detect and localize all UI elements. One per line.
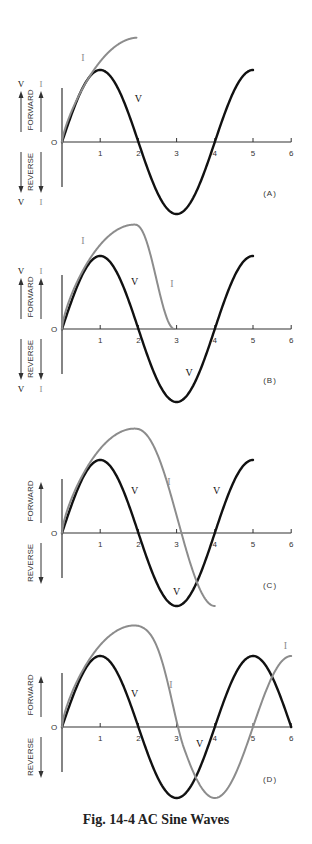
curve-label-v: V: [196, 738, 204, 749]
x-tick-label: 1: [98, 540, 103, 549]
side-label-i: I: [40, 79, 43, 89]
arrow-up-icon: [39, 676, 44, 683]
curve-label-i: I: [170, 278, 173, 289]
forward-label: FORWARD: [26, 674, 35, 715]
x-tick-label: 4: [213, 734, 218, 743]
arrow-up-icon: [39, 278, 44, 285]
curve-label-v: V: [131, 688, 139, 699]
reverse-label: REVERSE: [26, 544, 35, 582]
arrow-down-icon: [19, 186, 24, 193]
curve-label-i: I: [169, 679, 172, 690]
curve-label-v: V: [173, 586, 181, 597]
x-tick-label: 4: [213, 540, 218, 549]
panel-label: (B): [263, 376, 277, 385]
curve-label-i: I: [81, 235, 84, 246]
side-label-i: I: [40, 384, 43, 394]
arrow-down-icon: [39, 577, 44, 584]
forward-label: FORWARD: [26, 276, 35, 317]
side-label-v: V: [18, 79, 25, 89]
arrow-down-icon: [39, 373, 44, 380]
panel-label: (A): [263, 189, 277, 198]
x-tick-label: 5: [251, 540, 256, 549]
x-tick-label: 3: [174, 149, 179, 158]
side-label-v: V: [18, 197, 25, 207]
panel-label: (C): [263, 581, 277, 590]
curve-label-i: I: [167, 476, 170, 487]
arrow-down-icon: [19, 373, 24, 380]
arrow-up-icon: [39, 91, 44, 98]
origin-label: O: [51, 529, 57, 538]
x-tick-label: 6: [289, 540, 294, 549]
curve-label-v: V: [186, 367, 194, 378]
current-curve: [62, 38, 136, 142]
x-tick-label: 6: [289, 149, 294, 158]
x-tick-label: 4: [213, 149, 218, 158]
curve-label-i: I: [81, 52, 84, 63]
x-tick-label: 5: [251, 336, 256, 345]
x-tick-label: 3: [174, 540, 179, 549]
figure-caption: Fig. 14-4 AC Sine Waves: [0, 812, 312, 828]
arrow-down-icon: [39, 771, 44, 778]
panel-d: 123456OFORWARDREVERSEVIVI(D): [26, 625, 294, 798]
panel-b: 123456OFORWARDREVERSEVIVIVIIV(B): [18, 225, 294, 402]
forward-label: FORWARD: [26, 89, 35, 130]
current-curve: [62, 429, 215, 606]
x-tick-label: 1: [98, 336, 103, 345]
ac-sine-wave-figure: 123456OFORWARDREVERSEVIVIVI(A)123456OFOR…: [0, 0, 312, 844]
arrow-up-icon: [39, 482, 44, 489]
origin-label: O: [51, 325, 57, 334]
x-tick-label: 1: [98, 734, 103, 743]
side-label-v: V: [18, 266, 25, 276]
curve-label-v: V: [131, 276, 139, 287]
reverse-label: REVERSE: [26, 153, 35, 191]
current-curve: [62, 625, 291, 798]
x-tick-label: 4: [213, 336, 218, 345]
x-tick-label: 5: [251, 149, 256, 158]
arrow-up-icon: [19, 91, 24, 98]
x-tick-label: 3: [174, 734, 179, 743]
arrow-up-icon: [19, 278, 24, 285]
curve-label-v: V: [135, 93, 143, 104]
x-tick-label: 6: [289, 734, 294, 743]
origin-label: O: [51, 723, 57, 732]
x-tick-label: 6: [289, 336, 294, 345]
reverse-label: REVERSE: [26, 738, 35, 776]
panel-c: 123456OFORWARDREVERSEVIVV(C): [26, 429, 294, 606]
panel-a: 123456OFORWARDREVERSEVIVIVI(A): [18, 38, 294, 214]
forward-label: FORWARD: [26, 480, 35, 521]
side-label-i: I: [40, 197, 43, 207]
side-label-i: I: [40, 266, 43, 276]
arrow-down-icon: [39, 186, 44, 193]
curve-label-v: V: [131, 485, 139, 496]
panel-label: (D): [263, 775, 277, 784]
x-tick-label: 3: [174, 336, 179, 345]
x-tick-label: 1: [98, 149, 103, 158]
curve-label-i: I: [284, 640, 287, 651]
origin-label: O: [51, 138, 57, 147]
x-tick-label: 5: [251, 734, 256, 743]
reverse-label: REVERSE: [26, 340, 35, 378]
side-label-v: V: [18, 384, 25, 394]
curve-label-v: V: [213, 485, 221, 496]
